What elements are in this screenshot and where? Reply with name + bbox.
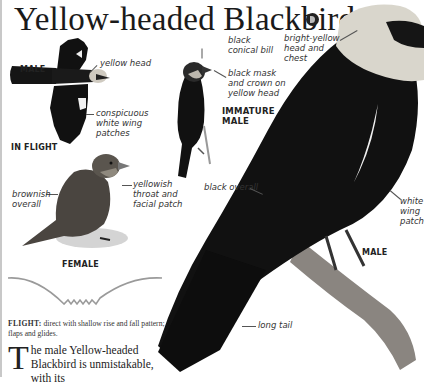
- flight-pattern-diagram: [6, 274, 166, 314]
- body-text: he male Yellow-headed Blackbird is unmis…: [31, 344, 154, 384]
- drop-cap: T: [8, 344, 29, 372]
- label-yellow-head: yellow head: [100, 58, 151, 68]
- in-flight-sex-tag: MALE: [20, 65, 46, 75]
- label-white-patch-1: white: [400, 196, 423, 206]
- page-edge-rule: [0, 0, 2, 377]
- body-paragraph: T he male Yellow-headed Blackbird is unm…: [8, 343, 173, 385]
- flight-description: FLIGHT: direct with shallow rise and fal…: [8, 319, 168, 339]
- label-wing-patches-1: conspicuous: [96, 108, 149, 118]
- female-caption: FEMALE: [62, 260, 99, 270]
- leader-line: [242, 326, 256, 327]
- leader-line: [86, 114, 94, 115]
- label-wing-patches-2: white wing: [96, 118, 142, 128]
- label-bright-2: head and: [284, 43, 324, 53]
- label-brownish-1: brownish: [12, 189, 51, 199]
- flight-heading: FLIGHT:: [8, 319, 42, 328]
- label-white-patch-2: wing: [400, 206, 420, 216]
- leader-line: [122, 185, 132, 186]
- label-brownish-2: overall: [12, 199, 41, 209]
- label-wing-patches-3: patches: [96, 128, 130, 138]
- label-white-patch-3: patch: [400, 216, 424, 226]
- male-caption: MALE: [362, 248, 388, 258]
- label-bright-3: chest: [284, 53, 307, 63]
- label-bright-1: bright-yellow: [284, 33, 340, 43]
- label-long-tail: long tail: [258, 320, 292, 330]
